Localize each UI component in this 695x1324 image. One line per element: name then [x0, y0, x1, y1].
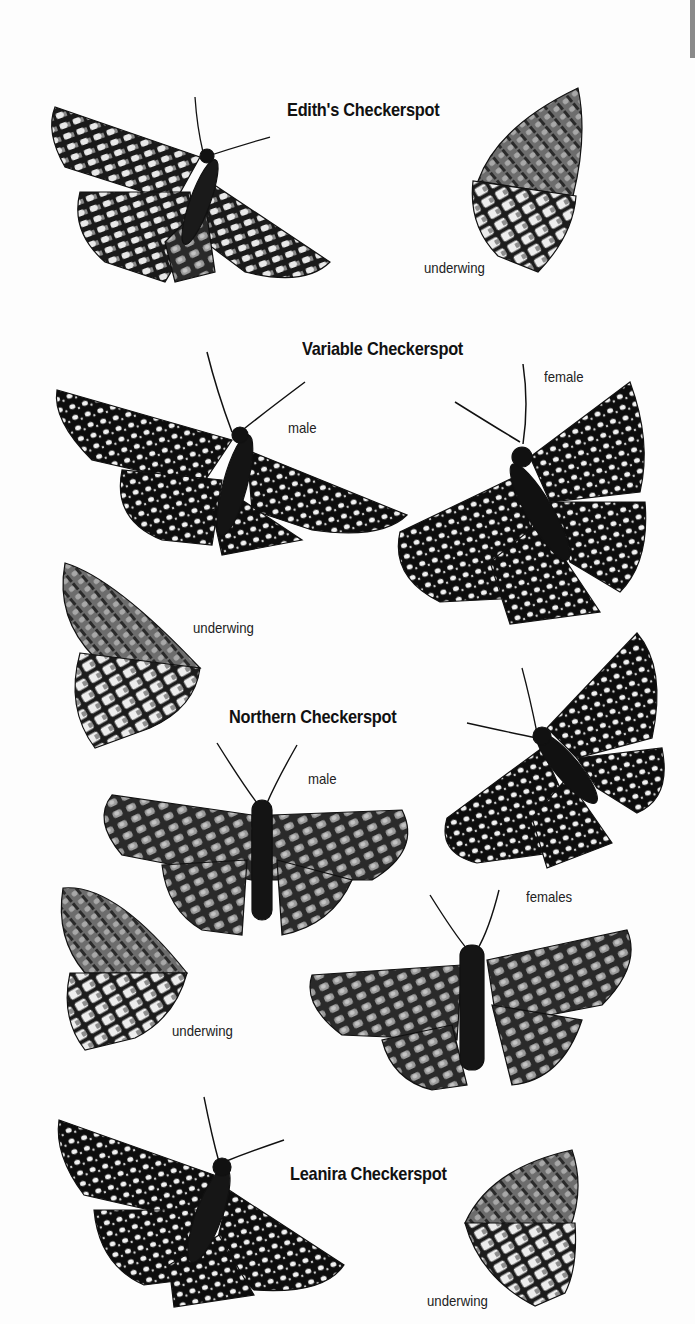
leanira-underwing-caption: underwing: [427, 1292, 488, 1309]
northern-female-illustration: [302, 885, 637, 1095]
northern-females-caption: females: [526, 888, 572, 905]
variable-female-illustration: [390, 362, 648, 624]
ediths-underwing-caption: underwing: [424, 259, 485, 276]
variable-male-caption: male: [288, 419, 317, 436]
variable-underwing-caption: underwing: [193, 619, 254, 636]
variable-underwing-illustration: [55, 558, 203, 748]
leanira-dorsal-illustration: [54, 1095, 346, 1310]
page-edge-tab: [690, 0, 695, 58]
field-guide-page: Edith's Checkerspot underwing Variable C: [0, 0, 695, 1324]
ediths-underwing-illustration: [468, 86, 586, 274]
ediths-dorsal-illustration: [45, 92, 335, 282]
leanira-underwing-illustration: [460, 1148, 582, 1308]
variable-female-caption: female: [544, 368, 584, 385]
northern-female-dark-illustration: [437, 628, 669, 873]
northern-male-caption: male: [308, 770, 337, 787]
variable-male-illustration: [52, 350, 412, 555]
species-title-northern: Northern Checkerspot: [229, 706, 396, 728]
northern-underwing-illustration: [55, 878, 187, 1053]
northern-underwing-caption: underwing: [172, 1022, 233, 1039]
